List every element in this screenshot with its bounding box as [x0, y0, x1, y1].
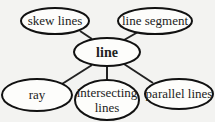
- node-line-segment: line segment: [118, 8, 192, 34]
- connector-skew-lines: [80, 31, 92, 39]
- node-skew-lines: skew lines: [21, 8, 89, 34]
- node-label-line2: lines: [95, 100, 120, 115]
- node-label: ray: [29, 87, 46, 102]
- node-label: skew lines: [28, 13, 83, 28]
- node-label: parallel lines: [146, 86, 213, 101]
- node-parallel-lines: parallel lines: [145, 79, 213, 109]
- connector-ray: [62, 65, 92, 84]
- node-ray: ray: [2, 79, 72, 111]
- node-intersecting-lines: intersecting lines: [75, 80, 139, 120]
- node-label: line segment: [122, 13, 188, 28]
- connector-line-segment: [124, 32, 138, 40]
- concept-map: skew lines line segment line ray interse…: [0, 0, 215, 122]
- connector-parallel-lines: [124, 64, 153, 83]
- node-label-line1: intersecting: [77, 85, 138, 100]
- center-label: line: [96, 45, 118, 60]
- node-line-center: line: [74, 38, 140, 66]
